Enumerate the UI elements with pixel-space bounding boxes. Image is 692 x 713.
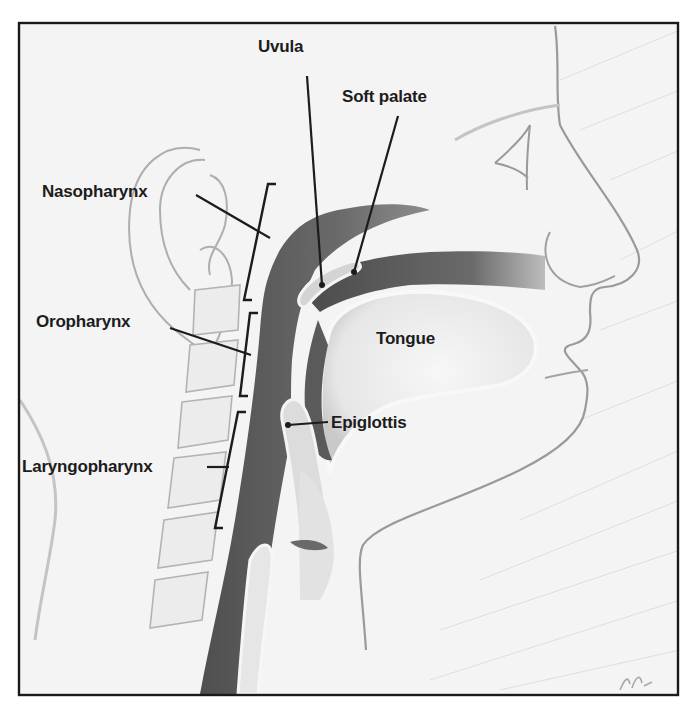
pharynx-illustration <box>0 0 692 713</box>
label-laryngopharynx: Laryngopharynx <box>22 458 152 475</box>
eye-outline <box>495 125 530 190</box>
label-tongue: Tongue <box>376 330 435 347</box>
neck-back-contour <box>20 400 56 640</box>
label-soft-palate: Soft palate <box>342 88 427 105</box>
brow-shading <box>455 105 560 140</box>
lip-line <box>545 370 588 378</box>
label-epiglottis: Epiglottis <box>331 414 406 431</box>
label-nasopharynx: Nasopharynx <box>42 183 148 200</box>
label-uvula: Uvula <box>258 38 303 55</box>
label-oropharynx: Oropharynx <box>36 313 130 330</box>
nostril-outline <box>545 232 615 287</box>
tongue-shape <box>321 292 536 470</box>
larynx-shape <box>299 470 334 600</box>
soft-palate-leader <box>354 116 398 272</box>
artist-signature <box>620 677 652 690</box>
nasopharynx-leader <box>196 195 270 238</box>
